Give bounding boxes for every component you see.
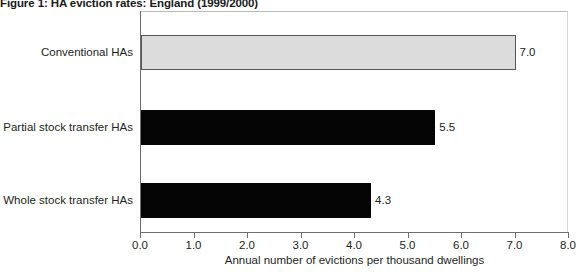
category-label-row: Partial stock transfer HAs — [0, 121, 133, 135]
x-tick-mark — [515, 233, 516, 238]
category-label: Partial stock transfer HAs — [3, 121, 133, 133]
x-tick-label: 6.0 — [453, 239, 469, 251]
x-tick-mark — [247, 233, 248, 238]
bar — [141, 183, 371, 218]
x-tick-mark — [461, 233, 462, 238]
x-tick-label: 1.0 — [186, 239, 202, 251]
x-tick-label: 3.0 — [293, 239, 309, 251]
category-label: Conventional HAs — [41, 46, 133, 58]
x-tick-label: 0.0 — [132, 239, 148, 251]
bar-value-label: 7.0 — [520, 46, 536, 58]
x-tick-label: 4.0 — [346, 239, 362, 251]
category-label: Whole stock transfer HAs — [3, 194, 133, 206]
figure-container: Figure 1: HA eviction rates: England (19… — [0, 0, 583, 272]
bar — [141, 35, 516, 70]
x-tick-mark — [140, 233, 141, 238]
x-tick-mark — [408, 233, 409, 238]
x-tick-mark — [301, 233, 302, 238]
x-tick-label: 5.0 — [400, 239, 416, 251]
category-label-row: Whole stock transfer HAs — [0, 194, 133, 208]
x-tick-mark — [568, 233, 569, 238]
x-tick-mark — [194, 233, 195, 238]
x-tick-label: 2.0 — [239, 239, 255, 251]
x-tick-mark — [354, 233, 355, 238]
x-tick-label: 8.0 — [560, 239, 576, 251]
category-label-row: Conventional HAs — [0, 46, 133, 60]
x-tick-label: 7.0 — [507, 239, 523, 251]
bar — [141, 110, 435, 145]
bar-value-label: 4.3 — [375, 194, 391, 206]
bar-value-label: 5.5 — [439, 121, 455, 133]
x-axis-title: Annual number of evictions per thousand … — [140, 254, 569, 266]
figure-title: Figure 1: HA eviction rates: England (19… — [0, 0, 258, 9]
